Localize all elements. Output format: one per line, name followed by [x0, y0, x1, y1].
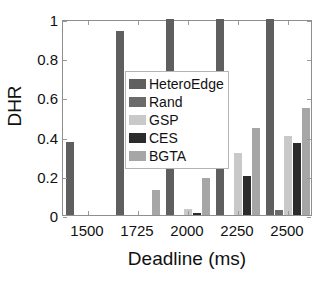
legend-item-label: GSP	[149, 113, 179, 127]
legend-item-label: HeteroEdge	[149, 77, 224, 91]
bar-gsp-2250	[234, 153, 242, 215]
x-tick-label: 2000	[170, 222, 203, 239]
bar-bgta-2500	[302, 108, 310, 215]
bar-ces-2250	[243, 176, 251, 215]
x-tick-mark	[188, 211, 189, 215]
legend-swatch-icon	[129, 151, 146, 161]
legend-item-heteroedge: HeteroEdge	[129, 75, 228, 93]
plot-area: HeteroEdgeRandGSPCESBGTA	[62, 20, 312, 216]
legend-swatch-icon	[129, 115, 146, 125]
x-tick-label: 1725	[120, 222, 153, 239]
bar-ces-2500	[293, 143, 301, 215]
y-tick-label: 0.6	[37, 90, 58, 107]
y-tick-mark-right	[307, 60, 311, 61]
bar-gsp-2500	[284, 136, 292, 215]
y-tick-label: 0.2	[37, 168, 58, 185]
legend-item-ces: CES	[129, 129, 228, 147]
legend-item-label: CES	[149, 131, 178, 145]
bar-chart-figure: DHR 00.20.40.60.81 HeteroEdgeRandGSPCESB…	[0, 0, 329, 287]
legend-swatch-icon	[129, 97, 146, 107]
x-tick-mark-top	[288, 21, 289, 25]
x-tick-label: 2250	[220, 222, 253, 239]
y-tick-mark	[63, 60, 67, 61]
y-tick-mark-right	[307, 178, 311, 179]
y-tick-mark	[63, 99, 67, 100]
bar-bgta-2250	[252, 128, 260, 215]
y-tick-mark	[63, 217, 67, 218]
bar-heteroedge-2500	[266, 19, 274, 215]
x-tick-mark	[238, 211, 239, 215]
x-tick-mark-top	[138, 21, 139, 25]
y-tick-mark	[63, 178, 67, 179]
legend-item-gsp: GSP	[129, 111, 228, 129]
legend-item-label: BGTA	[149, 149, 186, 163]
y-tick-mark-right	[307, 99, 311, 100]
chart-legend: HeteroEdgeRandGSPCESBGTA	[125, 71, 229, 169]
x-axis-title: Deadline (ms)	[62, 248, 312, 270]
legend-item-bgta: BGTA	[129, 147, 228, 165]
x-tick-mark	[138, 211, 139, 215]
y-tick-mark-right	[307, 139, 311, 140]
legend-item-rand: Rand	[129, 93, 228, 111]
legend-swatch-icon	[129, 79, 146, 89]
y-tick-mark	[63, 139, 67, 140]
y-tick-label: 1	[50, 12, 58, 29]
x-tick-mark	[88, 211, 89, 215]
y-tick-mark-right	[307, 21, 311, 22]
bar-bgta-1725	[152, 190, 160, 215]
y-tick-label: 0.4	[37, 129, 58, 146]
legend-item-label: Rand	[149, 95, 182, 109]
y-tick-mark	[63, 21, 67, 22]
x-tick-label: 2500	[270, 222, 303, 239]
x-tick-mark-top	[238, 21, 239, 25]
x-tick-label: 1500	[70, 222, 103, 239]
x-tick-mark-top	[88, 21, 89, 25]
x-axis-tick-labels: 15001725200022502500	[62, 222, 312, 242]
legend-swatch-icon	[129, 133, 146, 143]
y-tick-label: 0.8	[37, 51, 58, 68]
bar-ces-2000	[193, 213, 201, 215]
x-tick-mark	[288, 211, 289, 215]
bar-heteroedge-1725	[116, 31, 124, 215]
bar-bgta-2000	[202, 178, 210, 215]
y-tick-mark-right	[307, 217, 311, 218]
bar-rand-2500	[275, 210, 283, 215]
y-tick-label: 0	[50, 208, 58, 225]
x-tick-mark-top	[188, 21, 189, 25]
y-axis-tick-labels: 00.20.40.60.81	[14, 20, 58, 216]
